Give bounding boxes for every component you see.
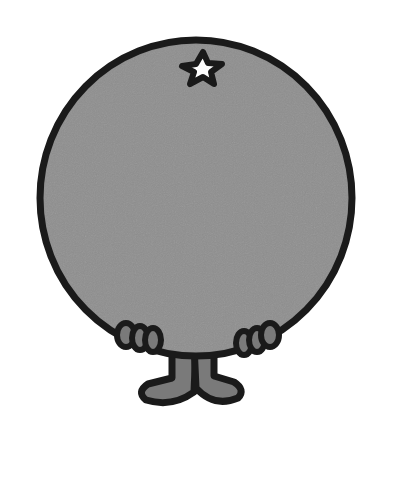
body	[40, 40, 352, 356]
left-hand	[117, 323, 161, 352]
cartoon-illustration	[0, 0, 398, 480]
